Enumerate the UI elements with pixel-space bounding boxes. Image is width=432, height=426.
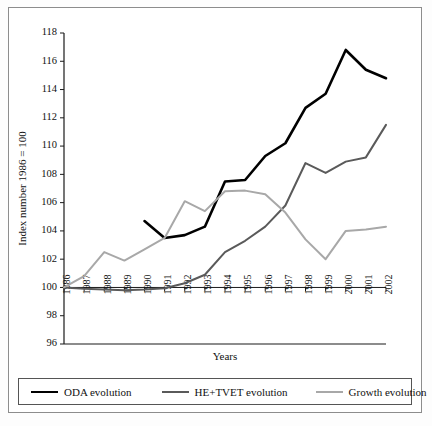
y-tick-label: 110 (42, 139, 57, 150)
x-tick-label: 1990 (142, 274, 153, 294)
x-tick-label: 2001 (363, 274, 374, 294)
x-tick-label: 1988 (102, 274, 113, 294)
y-tick-label: 102 (41, 253, 57, 264)
chart-plot-area: 9698100102104106108110112114116118 19861… (0, 0, 432, 426)
y-tick-label: 108 (41, 168, 57, 179)
legend-label: HE+TVET evolution (195, 386, 288, 398)
legend-label: Growth evolution (349, 386, 427, 398)
data-series-group (64, 50, 386, 290)
y-tick-label: 116 (42, 55, 57, 66)
x-axis-title: Years (213, 350, 238, 362)
y-tick-label: 96 (47, 337, 58, 348)
x-tick-label: 1996 (263, 274, 274, 294)
legend-item-0: ODA evolution (31, 386, 132, 398)
legend-label: ODA evolution (64, 386, 132, 398)
chart-legend: ODA evolutionHE+TVET evolutionGrowth evo… (18, 378, 412, 405)
series-line-2 (64, 191, 386, 288)
line-chart-svg: 9698100102104106108110112114116118 19861… (0, 0, 432, 426)
y-tick-label: 98 (47, 309, 58, 320)
y-axis: 9698100102104106108110112114116118 (41, 26, 64, 348)
y-tick-label: 100 (41, 281, 57, 292)
x-tick-label: 1989 (122, 274, 133, 294)
x-tick-label: 1997 (283, 274, 294, 294)
x-tick-label: 1999 (323, 274, 334, 294)
series-line-1 (64, 125, 386, 290)
x-tick-label: 1991 (162, 274, 173, 294)
y-tick-label: 118 (42, 26, 57, 37)
x-tick-label: 1995 (242, 274, 253, 294)
legend-item-2: Growth evolution (316, 386, 427, 398)
x-tick-label: 1993 (202, 274, 213, 294)
y-tick-label: 106 (41, 196, 57, 207)
x-tick-label: 2002 (383, 274, 394, 294)
y-tick-label: 104 (41, 224, 58, 235)
figure-container: 9698100102104106108110112114116118 19861… (0, 0, 432, 426)
legend-swatch-icon (31, 391, 58, 393)
x-axis: 1986198719881989199019911992199319941995… (61, 274, 394, 344)
legend-swatch-icon (162, 391, 189, 393)
x-tick-label: 2000 (343, 274, 354, 294)
y-tick-label: 112 (42, 111, 57, 122)
legend-item-1: HE+TVET evolution (162, 386, 288, 398)
x-tick-label: 1994 (222, 274, 233, 294)
y-tick-label: 114 (42, 83, 58, 94)
y-axis-title: Index number 1986 = 100 (16, 131, 28, 246)
x-tick-label: 1998 (303, 274, 314, 294)
legend-swatch-icon (316, 391, 343, 393)
